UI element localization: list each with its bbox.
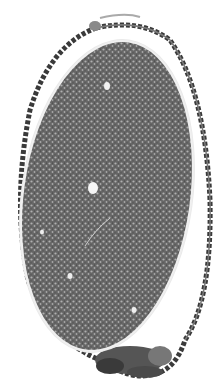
nerve-cross-section-image bbox=[0, 0, 223, 392]
micrograph bbox=[0, 0, 223, 392]
bottom-tissue bbox=[95, 346, 172, 378]
